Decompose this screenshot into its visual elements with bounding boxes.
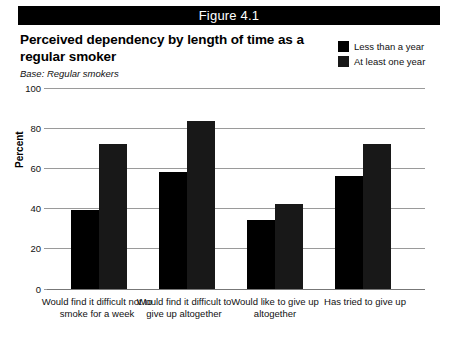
bars-layer	[47, 88, 425, 290]
bar-group	[71, 87, 127, 289]
chart-title: Perceived dependency by length of time a…	[20, 31, 340, 65]
x-category-label: Has tried to give up	[315, 296, 415, 308]
bar-series-2	[275, 204, 303, 289]
figure-container: Figure 4.1 Perceived dependency by lengt…	[0, 0, 458, 344]
bar-series-2	[363, 144, 391, 289]
y-axis-label: Percent	[14, 131, 25, 168]
bar-group	[247, 87, 303, 289]
y-tick-label: 0	[36, 284, 41, 295]
x-category-label: Would like to give up altogether	[220, 296, 330, 319]
bar-group	[159, 87, 215, 289]
bar-series-1	[159, 172, 187, 289]
figure-banner: Figure 4.1	[18, 6, 440, 25]
x-axis-labels: Would find it difficult not to smoke for…	[47, 296, 425, 340]
y-tick-label: 40	[30, 203, 41, 214]
legend-item: Less than a year	[338, 40, 442, 52]
legend-item-label: At least one year	[354, 56, 425, 67]
bar-series-2	[187, 121, 215, 289]
y-tick-label: 60	[30, 163, 41, 174]
plot-area: 100 80 60 40 20 0	[47, 88, 425, 290]
bar-series-1	[247, 220, 275, 289]
bar-series-2	[99, 144, 127, 289]
legend-item-label: Less than a year	[354, 41, 424, 52]
chart-base-note: Base: Regular smokers	[20, 68, 119, 79]
bar-series-1	[335, 176, 363, 289]
chart-legend: Less than a year At least one year	[338, 40, 442, 70]
y-tick-label: 100	[25, 83, 41, 94]
y-tick-label: 80	[30, 123, 41, 134]
bar-group	[335, 87, 391, 289]
legend-swatch-icon	[338, 56, 349, 67]
legend-item: At least one year	[338, 55, 442, 67]
bar-series-1	[71, 210, 99, 289]
legend-swatch-icon	[338, 41, 349, 52]
y-tick-label: 20	[30, 243, 41, 254]
